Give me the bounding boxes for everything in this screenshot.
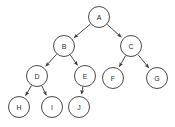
node-d[interactable]: D [27,66,48,87]
node-circle-j[interactable] [69,97,90,118]
node-c[interactable]: C [121,36,142,57]
node-i[interactable]: I [42,97,63,118]
tree-diagram-canvas: ABCDEFGHIJ [0,0,175,127]
edge-c-to-f [119,56,125,67]
node-b[interactable]: B [54,36,75,57]
node-circle-f[interactable] [103,68,124,89]
edge-d-to-i [42,86,47,95]
node-circle-e[interactable] [75,66,96,87]
edge-b-to-d [46,54,57,66]
node-circle-b[interactable] [54,36,75,57]
edge-d-to-h [26,86,32,96]
node-h[interactable]: H [9,97,30,118]
node-j[interactable]: J [69,97,90,118]
edge-c-to-g [138,55,149,68]
tree-diagram-svg: ABCDEFGHIJ [0,0,175,127]
node-circle-g[interactable] [147,68,168,89]
node-circle-a[interactable] [89,7,110,28]
node-f[interactable]: F [103,68,124,89]
edge-a-to-c [107,24,121,37]
node-circle-c[interactable] [121,36,142,57]
edge-e-to-j [81,87,82,94]
node-circle-i[interactable] [42,97,63,118]
node-a[interactable]: A [89,7,110,28]
node-g[interactable]: G [147,68,168,89]
edge-b-to-e [70,55,77,65]
edge-a-to-b [74,24,90,38]
node-circle-d[interactable] [27,66,48,87]
node-circle-h[interactable] [9,97,30,118]
node-e[interactable]: E [75,66,96,87]
